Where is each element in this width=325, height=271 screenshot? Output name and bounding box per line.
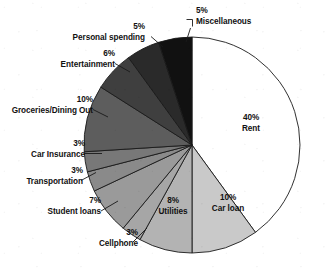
- slice-label-personal-spending: 5% Personal spending: [73, 22, 145, 43]
- slice-name-cellphone: Cellphone: [99, 239, 138, 250]
- pie-chart-graphic: [0, 0, 325, 271]
- slice-percent-cellphone: 3%: [99, 228, 138, 239]
- slice-label-car-loan: 10% Car loan: [200, 193, 256, 214]
- slice-percent-groceries-dining-out: 10%: [12, 95, 93, 106]
- pie-slices-group: [84, 37, 300, 253]
- slice-name-groceries-dining-out: Groceries/Dining Out: [12, 106, 93, 117]
- slice-label-rent: 40% Rent: [228, 113, 274, 134]
- slice-name-rent: Rent: [228, 124, 274, 135]
- slice-percent-utilities: 8%: [150, 196, 196, 207]
- slice-percent-student-loans: 7%: [48, 196, 101, 207]
- slice-percent-car-insurance: 3%: [31, 139, 85, 150]
- slice-label-groceries-dining-out: 10% Groceries/Dining Out: [12, 95, 93, 116]
- slice-percent-miscellaneous: 5%: [196, 6, 251, 17]
- slice-label-utilities: 8% Utilities: [150, 196, 196, 217]
- slice-name-car-insurance: Car Insurance: [31, 150, 85, 161]
- slice-label-miscellaneous: 5% Miscellaneous: [196, 6, 251, 27]
- slice-label-transportation: 3% Transportation: [26, 166, 83, 187]
- slice-percent-car-loan: 10%: [200, 193, 256, 204]
- slice-label-cellphone: 3% Cellphone: [99, 228, 138, 249]
- slice-percent-rent: 40%: [228, 113, 274, 124]
- slice-label-entertainment: 6% Entertainment: [61, 49, 115, 70]
- slice-label-student-loans: 7% Student loans: [48, 196, 101, 217]
- slice-name-student-loans: Student loans: [48, 207, 101, 218]
- slice-name-car-loan: Car loan: [200, 204, 256, 215]
- slice-name-transportation: Transportation: [26, 177, 83, 188]
- slice-percent-personal-spending: 5%: [73, 22, 145, 33]
- slice-name-utilities: Utilities: [150, 207, 196, 218]
- leader-line-miscellaneous: [187, 20, 193, 27]
- slice-label-car-insurance: 3% Car Insurance: [31, 139, 85, 160]
- slice-percent-entertainment: 6%: [61, 49, 115, 60]
- slice-percent-transportation: 3%: [26, 166, 83, 177]
- slice-name-miscellaneous: Miscellaneous: [196, 17, 251, 28]
- slice-name-personal-spending: Personal spending: [73, 33, 145, 44]
- budget-pie-chart: 5% Miscellaneous 5% Personal spending 6%…: [0, 0, 325, 271]
- slice-name-entertainment: Entertainment: [61, 60, 115, 71]
